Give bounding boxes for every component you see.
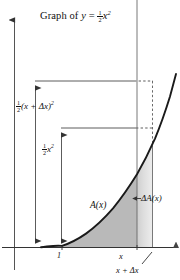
leader-line-x-plus-dx — [142, 252, 152, 264]
figure-canvas: Graph of y = 1 2 x2 1 2 (x + Δx)2 1 2 x2… — [0, 0, 180, 280]
x-tick-label-x: x — [119, 252, 123, 261]
lower-height-denominator: 2 — [42, 149, 47, 156]
lower-height-exponent: 2 — [51, 143, 54, 149]
title-fraction: 1 2 — [97, 10, 102, 24]
title-prefix: Graph of — [40, 10, 78, 21]
label-upper-height: 1 2 (x + Δx)2 — [16, 100, 54, 114]
label-delta-area: ΔA(x) — [141, 194, 162, 203]
upper-height-body: (x + Δx) — [21, 101, 51, 111]
graph-svg — [0, 0, 180, 280]
x-tick-label-x-plus-dx: x + Δx — [116, 266, 139, 275]
x-tick-label-one: 1 — [57, 252, 61, 260]
upper-height-denominator: 2 — [16, 106, 21, 113]
title-exponent: 2 — [107, 9, 110, 16]
label-area-a-of-x: A(x) — [88, 200, 108, 212]
title-fraction-denominator: 2 — [97, 16, 102, 23]
title-var-y: y — [81, 10, 86, 21]
figure-title: Graph of y = 1 2 x2 — [40, 10, 111, 24]
label-lower-height: 1 2 x2 — [42, 143, 54, 157]
title-equals: = — [89, 10, 95, 21]
upper-height-fraction: 1 2 — [16, 100, 21, 114]
lower-height-fraction: 1 2 — [42, 143, 47, 157]
upper-height-exponent: 2 — [51, 100, 54, 106]
